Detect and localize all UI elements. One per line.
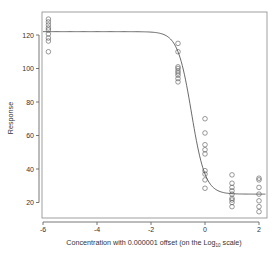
y-tick-label: 100 (22, 65, 34, 72)
data-point (257, 204, 262, 209)
x-tick-label: 0 (203, 226, 207, 233)
dose-response-chart: -6-4-202 20406080100120 Response Concent… (0, 0, 276, 254)
data-point (46, 49, 51, 54)
y-axis: 20406080100120 (22, 32, 39, 207)
data-point (203, 131, 208, 136)
data-point (176, 80, 181, 85)
fitted-curve (43, 32, 265, 194)
y-tick-label: 60 (26, 132, 34, 139)
data-point (257, 185, 262, 190)
x-tick-label: -6 (40, 226, 46, 233)
data-point (203, 116, 208, 121)
x-axis-title-tail: scale) (221, 238, 242, 247)
x-tick-label: -2 (148, 226, 154, 233)
y-axis-title: Response (6, 102, 15, 134)
data-point (203, 186, 208, 191)
x-axis-title-main: Concentration with 0.000001 offset (on t… (66, 238, 215, 247)
plot-frame (42, 12, 267, 218)
y-tick-label: 80 (26, 99, 34, 106)
fitted-curve-line (43, 32, 265, 194)
x-tick-label: -4 (94, 226, 100, 233)
y-tick-label: 120 (22, 32, 34, 39)
data-point (203, 178, 208, 183)
data-point (257, 209, 262, 214)
data-point (176, 41, 181, 46)
data-point (230, 173, 235, 178)
data-point (203, 142, 208, 147)
data-point (46, 39, 51, 44)
y-tick-label: 20 (26, 199, 34, 206)
x-tick-label: 2 (257, 226, 261, 233)
y-tick-label: 40 (26, 166, 34, 173)
data-point (257, 199, 262, 204)
data-points (46, 17, 261, 214)
x-axis-title: Concentration with 0.000001 offset (on t… (66, 238, 242, 248)
x-axis: -6-4-202 (40, 222, 261, 233)
